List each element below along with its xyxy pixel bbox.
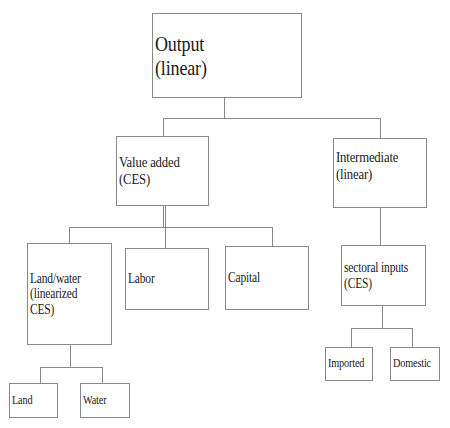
connector-value-added-down xyxy=(163,206,164,227)
connector-to-labor xyxy=(165,206,166,248)
connector-sectoral-down xyxy=(382,306,383,328)
connector-to-sectoral-inputs xyxy=(380,208,381,245)
node-value-added: Value added (CES) xyxy=(116,136,209,206)
node-domestic: Domestic xyxy=(390,347,440,381)
production-tree-diagram: Output (linear) Value added (CES) Interm… xyxy=(0,0,450,428)
connector-to-water xyxy=(102,367,103,383)
node-land-water: Land/water (linearized CES) xyxy=(27,243,112,345)
node-land-label: Land xyxy=(12,394,32,408)
node-water-label: Water xyxy=(83,394,106,408)
node-land: Land xyxy=(9,383,58,418)
node-intermediate: Intermediate (linear) xyxy=(333,138,427,208)
connector-to-value-added xyxy=(163,118,164,136)
connector-to-domestic xyxy=(412,328,413,347)
connector-to-imported xyxy=(351,328,352,347)
node-capital-label: Capital xyxy=(228,270,260,285)
node-imported-label: Imported xyxy=(328,357,364,371)
node-labor-label: Labor xyxy=(128,271,155,286)
node-output: Output (linear) xyxy=(152,13,302,98)
connector-to-intermediate xyxy=(380,118,381,138)
connector-to-land xyxy=(40,367,41,383)
connector-value-added-branch xyxy=(69,227,273,228)
connector-to-capital xyxy=(272,227,273,246)
node-imported: Imported xyxy=(325,347,373,381)
node-capital: Capital xyxy=(225,246,309,310)
node-water: Water xyxy=(80,383,130,418)
connector-to-land-water xyxy=(69,227,70,243)
node-intermediate-label: Intermediate (linear) xyxy=(336,149,398,182)
connector-sectoral-branch xyxy=(351,328,413,329)
node-labor: Labor xyxy=(125,248,209,310)
node-sectoral-inputs-label: sectoral inputs (CES) xyxy=(344,260,408,290)
connector-land-water-down xyxy=(70,345,71,367)
node-domestic-label: Domestic xyxy=(393,357,431,371)
connector-output-down xyxy=(224,98,225,118)
connector-output-branch xyxy=(163,118,381,119)
node-sectoral-inputs: sectoral inputs (CES) xyxy=(341,245,426,306)
connector-land-water-branch xyxy=(40,367,103,368)
node-output-label: Output (linear) xyxy=(155,32,207,80)
node-value-added-label: Value added (CES) xyxy=(119,154,180,187)
node-land-water-label: Land/water (linearized CES) xyxy=(30,271,81,316)
